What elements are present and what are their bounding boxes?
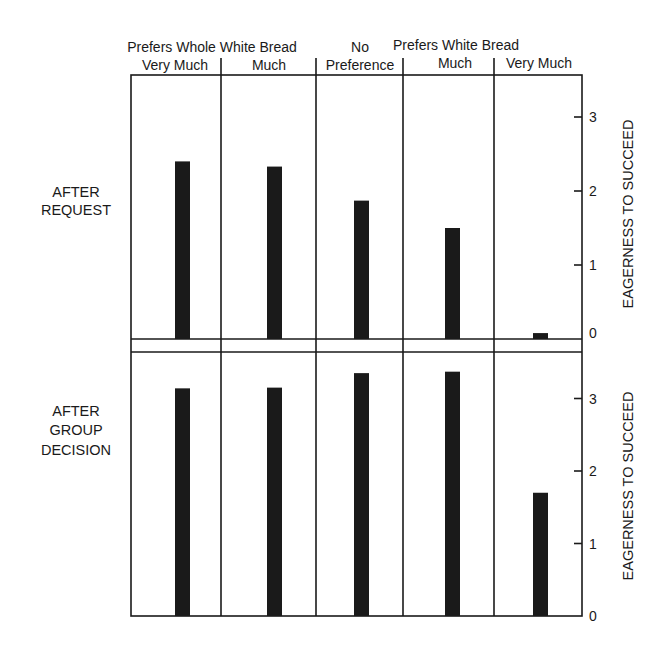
tick-label: 1 (589, 536, 597, 552)
bars-after-group-decision (175, 372, 548, 616)
tick-label: 3 (589, 391, 597, 407)
bar-2 (267, 388, 282, 616)
tick-label: 2 (589, 183, 597, 199)
panel-label-group: GROUP (49, 422, 102, 438)
header-much-left: Much (252, 57, 286, 73)
tick-label: 1 (589, 257, 597, 273)
tick-label: 3 (589, 109, 597, 125)
header-no: No (351, 39, 369, 55)
bar-4 (445, 372, 460, 616)
panel-labels: AFTER REQUEST AFTER GROUP DECISION (41, 184, 111, 458)
bars-after-request (175, 161, 548, 339)
header-preference: Preference (326, 57, 395, 73)
bar-4 (445, 228, 460, 339)
tick-label: 2 (589, 463, 597, 479)
bar-chart: Prefers Whole White Bread Very Much Much… (0, 0, 671, 649)
bar-3 (354, 373, 369, 616)
y-axis-label-bottom: EAGERNESS TO SUCCEED (620, 392, 636, 581)
y-axis-label-top: EAGERNESS TO SUCCEED (620, 120, 636, 309)
header-prefers-white-bread: Prefers White Bread (393, 37, 519, 53)
header-much-right: Much (438, 55, 472, 71)
y-axis-bottom: 0123 (574, 391, 597, 625)
bar-3 (354, 201, 369, 339)
panel-label-after: AFTER (52, 184, 100, 200)
column-headers: Prefers Whole White Bread Very Much Much… (127, 37, 572, 73)
header-prefers-whole-white-bread: Prefers Whole White Bread (127, 39, 297, 55)
panel-label-request: REQUEST (41, 202, 111, 218)
tick-label: 0 (589, 325, 597, 341)
bar-5 (533, 333, 548, 339)
tick-label: 0 (589, 608, 597, 624)
bar-1 (175, 388, 190, 616)
header-very-much-right: Very Much (506, 55, 572, 71)
bar-2 (267, 167, 282, 339)
y-axis-top: 0123 (574, 109, 597, 341)
bar-5 (533, 493, 548, 616)
panel-label-decision: DECISION (41, 442, 111, 458)
panel-label-after-2: AFTER (52, 403, 100, 419)
bar-1 (175, 161, 190, 339)
header-very-much-left: Very Much (142, 57, 208, 73)
